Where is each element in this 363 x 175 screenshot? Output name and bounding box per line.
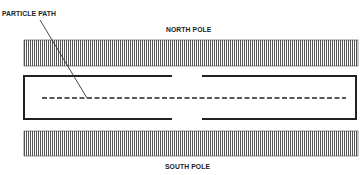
south-pole-bar — [24, 131, 358, 156]
north-pole-bar — [24, 40, 358, 66]
north-pole-label: NORTH POLE — [166, 25, 211, 34]
south-pole-label: SOUTH POLE — [165, 162, 210, 171]
particle-path-label: PARTICLE PATH — [2, 9, 56, 18]
